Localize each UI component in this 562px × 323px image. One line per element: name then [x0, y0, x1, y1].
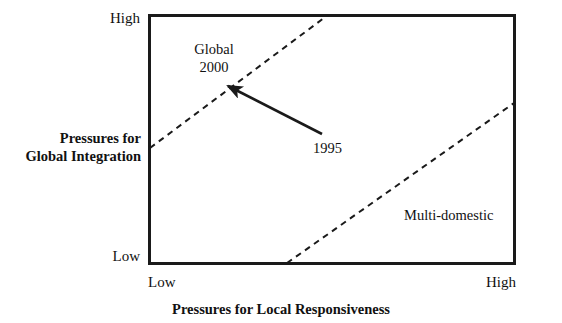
x-axis-tick-low: Low — [148, 275, 176, 290]
annotation-global-2000-line-2: 2000 — [186, 58, 242, 76]
annotation-global-2000-line-1: Global — [186, 40, 242, 58]
y-axis-tick-low: Low — [0, 249, 140, 264]
annotation-multi-domestic: Multi-domestic — [404, 206, 493, 224]
y-axis-tick-high: High — [0, 11, 140, 26]
x-axis-tick-high: High — [436, 275, 516, 290]
x-axis-title: Pressures for Local Responsiveness — [0, 301, 562, 319]
y-axis-title-line-2: Global Integration — [0, 148, 141, 166]
strategy-positioning-diagram: High Low Low High Pressures for Global I… — [0, 0, 562, 323]
y-axis-title: Pressures for Global Integration — [0, 130, 141, 165]
annotation-global-2000: Global 2000 — [186, 40, 242, 76]
annotation-year-1995: 1995 — [313, 139, 342, 157]
y-axis-title-line-1: Pressures for — [0, 130, 141, 148]
